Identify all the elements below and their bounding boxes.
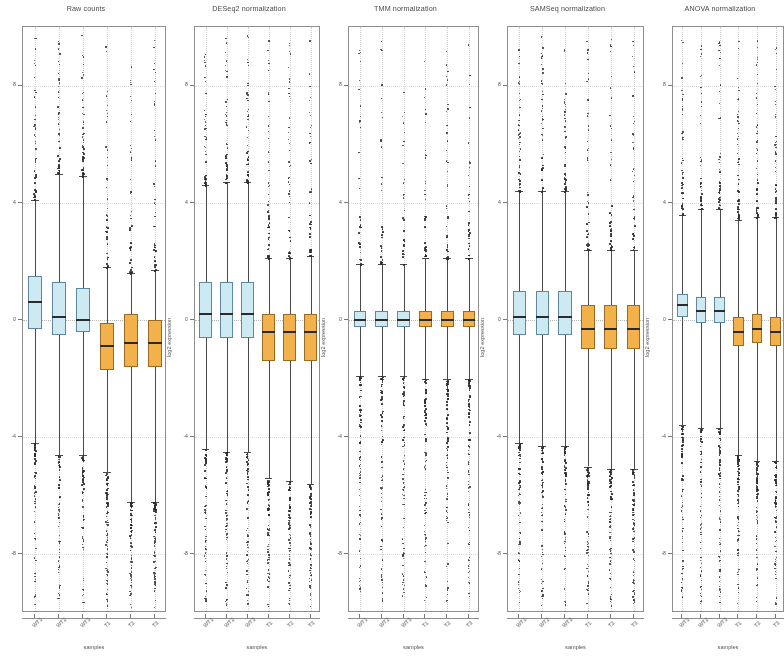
outlier-point [248, 489, 250, 491]
median-line [733, 331, 744, 333]
outlier-point [404, 112, 405, 113]
outlier-point [382, 411, 384, 413]
gridline-horizontal [508, 554, 643, 555]
outlier-point [204, 464, 206, 466]
outlier-point [107, 208, 108, 209]
outlier-point [447, 216, 449, 218]
outlier-point [447, 79, 448, 80]
outlier-point [446, 422, 448, 424]
outlier-point [82, 537, 83, 538]
outlier-point [360, 105, 361, 106]
whisker-upper [131, 273, 132, 314]
outlier-point [446, 442, 448, 444]
gridline-horizontal [349, 86, 478, 87]
outlier-point [225, 512, 226, 513]
outlier-point [425, 254, 427, 256]
outlier-point [155, 526, 157, 528]
box-WT3 [241, 282, 253, 338]
outlier-point [154, 266, 156, 268]
outlier-point [403, 219, 405, 221]
outlier-point [225, 587, 226, 588]
x-axis-title: samples [22, 644, 166, 650]
outlier-point [447, 493, 448, 494]
whisker-lower [738, 346, 739, 454]
x-axis-tick [700, 614, 701, 618]
outlier-point [719, 570, 720, 571]
outlier-point [360, 474, 361, 475]
y-axis-tick-label: 8 [650, 81, 666, 87]
whisker-lower [757, 343, 758, 460]
outlier-point [82, 547, 83, 548]
y-axis-tick-label: -4 [326, 433, 342, 439]
outlier-point [107, 522, 108, 523]
outlier-point [404, 442, 406, 444]
outlier-point [701, 600, 702, 601]
outlier-point [737, 516, 738, 517]
outlier-point [588, 566, 589, 567]
outlier-point [247, 472, 249, 474]
outlier-point [446, 258, 448, 260]
box-WT3 [76, 288, 90, 332]
outlier-point [720, 550, 721, 551]
outlier-point [682, 160, 683, 161]
outlier-point [155, 538, 156, 539]
outlier-point [610, 164, 611, 165]
outlier-point [309, 40, 310, 41]
outlier-point [35, 595, 36, 596]
outlier-point [425, 492, 426, 493]
y-axis-tick [18, 202, 22, 203]
outlier-point [756, 535, 757, 536]
outlier-point [738, 459, 740, 461]
x-axis-tick [359, 614, 360, 618]
outlier-point [757, 179, 759, 181]
whisker-upper [248, 182, 249, 282]
outlier-point [107, 243, 109, 245]
outlier-point [611, 97, 612, 98]
whisker-upper [469, 258, 470, 311]
y-axis-tick-label: -4 [485, 433, 501, 439]
outlier-point [469, 396, 471, 398]
outlier-point [542, 68, 543, 69]
outlier-point [447, 563, 448, 564]
outlier-point [424, 226, 426, 228]
outlier-point [153, 536, 154, 537]
outlier-point [447, 472, 448, 473]
outlier-point [682, 560, 683, 561]
outlier-point [519, 522, 520, 523]
outlier-point [738, 502, 739, 503]
outlier-point [359, 477, 360, 478]
outlier-point [309, 236, 311, 238]
outlier-point [424, 242, 426, 244]
outlier-point [469, 486, 470, 487]
outlier-point [59, 469, 61, 471]
outlier-point [58, 112, 59, 113]
outlier-point [360, 419, 362, 421]
outlier-point [468, 258, 470, 260]
outlier-point [402, 446, 403, 447]
x-axis-tick [268, 614, 269, 618]
y-axis-tick-label: 0 [172, 316, 188, 322]
outlier-point [403, 553, 404, 554]
outlier-point [359, 523, 360, 524]
outlier-point [289, 507, 291, 509]
outlier-point [402, 217, 404, 219]
outlier-point [588, 125, 589, 126]
outlier-point [246, 508, 247, 509]
outlier-point [610, 553, 611, 554]
x-axis-tick [424, 614, 425, 618]
outlier-point [247, 476, 249, 478]
outlier-point [700, 462, 702, 464]
outlier-point [83, 74, 84, 75]
outlier-point [268, 244, 270, 246]
outlier-point [701, 580, 702, 581]
outlier-point [227, 147, 228, 148]
outlier-point [106, 557, 107, 558]
box-WT2 [536, 291, 549, 335]
y-axis-tick [668, 85, 672, 86]
outlier-point [83, 483, 85, 485]
outlier-point [776, 462, 778, 464]
y-axis-tick [344, 202, 348, 203]
whisker-lower [248, 338, 249, 452]
y-axis-tick-label: -4 [0, 433, 16, 439]
outlier-point [311, 499, 313, 501]
